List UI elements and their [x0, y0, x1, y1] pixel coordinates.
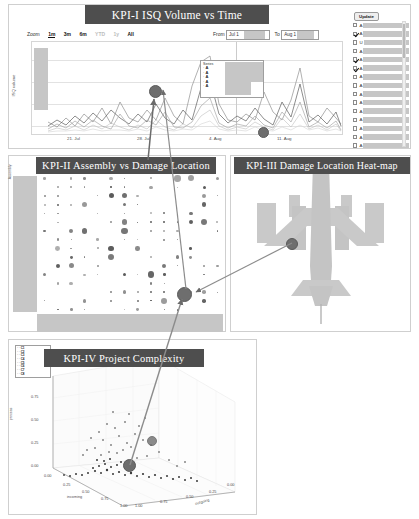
- bubble-point: [97, 274, 98, 275]
- bubble-point: [136, 308, 139, 311]
- bubble-point: [57, 204, 59, 206]
- kpi4-selected-marker[interactable]: [123, 459, 136, 472]
- series-checkbox[interactable]: [353, 40, 357, 44]
- bubble-point: [203, 274, 204, 275]
- series-checkbox[interactable]: [353, 143, 357, 147]
- bubble-point: [150, 212, 152, 214]
- bubble-point: [135, 246, 139, 250]
- bubble-point: [96, 238, 99, 241]
- kpi1-selected-peak-marker[interactable]: [149, 85, 162, 98]
- zoom-option-3m[interactable]: 3m: [64, 31, 71, 37]
- bubble-point: [203, 265, 205, 267]
- series-checkbox[interactable]: [353, 57, 357, 61]
- series-checkbox-row[interactable]: A: [353, 133, 409, 142]
- series-checkbox-row[interactable]: A: [353, 81, 409, 90]
- kpi4-ytick: 0.50: [186, 495, 193, 499]
- kpi3-damage-marker[interactable]: [286, 238, 298, 250]
- kpi1-xtick: 21. Jul: [67, 136, 80, 141]
- series-checkbox-row[interactable]: A: [353, 73, 409, 82]
- series-checkbox-label: A: [359, 109, 362, 114]
- series-checkbox[interactable]: [353, 118, 357, 122]
- series-checkbox-label: A: [359, 126, 362, 131]
- series-checkbox-row[interactable]: A: [353, 98, 409, 107]
- bubble-point: [82, 228, 87, 233]
- series-checkbox-row[interactable]: A: [353, 47, 409, 56]
- scrollbar-thumb[interactable]: [403, 24, 405, 58]
- kpi1-plot-area[interactable]: Series · A · A · A · A · A: [31, 41, 343, 135]
- kpi1-selected-point-marker[interactable]: [258, 127, 269, 138]
- bubble-point: [189, 220, 193, 224]
- kpi2-plot-area[interactable]: [38, 174, 224, 314]
- series-checkbox-row[interactable]: A: [353, 141, 409, 150]
- checkbox-list-scrollbar[interactable]: [402, 21, 406, 147]
- series-checkbox-label: U: [359, 40, 362, 45]
- series-checkbox-row[interactable]: A: [353, 107, 409, 116]
- series-checkbox-row[interactable]: A: [353, 64, 409, 73]
- bubble-point: [150, 177, 152, 179]
- zoom-option-1m[interactable]: 1m: [48, 31, 55, 38]
- bubble-point: [97, 247, 99, 249]
- bubble-point: [97, 265, 99, 267]
- series-checkbox-row[interactable]: U: [353, 38, 409, 47]
- series-checkbox[interactable]: [353, 135, 357, 139]
- bubble-point: [163, 239, 165, 241]
- bubble-point: [44, 213, 45, 214]
- bubble-point: [57, 222, 58, 223]
- bubble-point: [43, 177, 46, 180]
- series-checkbox-row[interactable]: A: [353, 21, 409, 30]
- bubble-point: [189, 256, 192, 259]
- bubble-point: [202, 202, 207, 207]
- series-checkbox[interactable]: [353, 49, 357, 53]
- zoom-option-6m[interactable]: 6m: [79, 31, 86, 37]
- series-checkbox[interactable]: [353, 66, 357, 70]
- kpi4-arrow-head-marker[interactable]: [147, 436, 157, 446]
- update-button[interactable]: Update: [354, 12, 379, 21]
- kpi4-title: KPI-IV Project Complexity: [44, 349, 204, 367]
- series-checkbox-row[interactable]: A: [353, 116, 409, 125]
- bubble-point: [84, 256, 85, 257]
- series-checkbox[interactable]: [353, 109, 357, 113]
- zoom-option-ytd[interactable]: YTD: [95, 31, 105, 37]
- series-checkbox[interactable]: [353, 92, 357, 96]
- series-checkbox-row[interactable]: A: [353, 90, 409, 99]
- series-checkbox-list[interactable]: AAUAAAAAAAAAAAA: [353, 21, 409, 152]
- series-checkbox-row[interactable]: A: [353, 124, 409, 133]
- bubble-point: [97, 195, 98, 196]
- kpi2-selected-marker[interactable]: [177, 287, 192, 302]
- kpi4-xtick: 0.75: [101, 497, 108, 501]
- from-date-input[interactable]: Jul 1: [226, 30, 270, 40]
- series-checkbox[interactable]: [353, 83, 357, 87]
- series-checkbox[interactable]: [353, 126, 357, 130]
- bubble-point: [188, 175, 194, 181]
- bubble-point: [70, 177, 72, 179]
- bubble-point: [124, 309, 125, 310]
- bubble-point: [150, 230, 151, 231]
- series-checkbox-label: A: [359, 57, 362, 62]
- kpi4-xtick: 1.00: [120, 504, 127, 508]
- series-checkbox-row[interactable]: A: [353, 55, 409, 64]
- bubble-point: [57, 282, 60, 285]
- bubble-point: [163, 221, 165, 223]
- series-checkbox[interactable]: [353, 32, 357, 36]
- zoom-option-all[interactable]: All: [127, 31, 133, 37]
- bubble-point: [137, 222, 138, 223]
- series-checkbox[interactable]: [353, 23, 357, 27]
- bubble-point: [70, 186, 72, 188]
- series-checkbox-label: A: [359, 143, 362, 148]
- bubble-point: [202, 299, 205, 302]
- bubble-point: [164, 309, 165, 310]
- to-date-input[interactable]: Aug 1: [281, 30, 319, 40]
- series-checkbox[interactable]: [353, 75, 357, 79]
- bubble-point: [176, 230, 178, 232]
- kpi4-ztick: 0.25: [31, 441, 38, 445]
- kpi4-legend-item: · · C8: [17, 373, 49, 377]
- kpi3-panel: [230, 155, 411, 332]
- series-checkbox[interactable]: [353, 100, 357, 104]
- bubble-point: [70, 248, 71, 249]
- series-checkbox-label: A: [359, 100, 362, 105]
- zoom-option-1y[interactable]: 1y: [113, 31, 119, 37]
- series-checkbox-row[interactable]: A: [353, 30, 409, 39]
- kpi1-legend-redaction: [225, 62, 263, 82]
- kpi4-ztick: 0.00: [31, 464, 38, 468]
- bubble-point: [163, 291, 165, 293]
